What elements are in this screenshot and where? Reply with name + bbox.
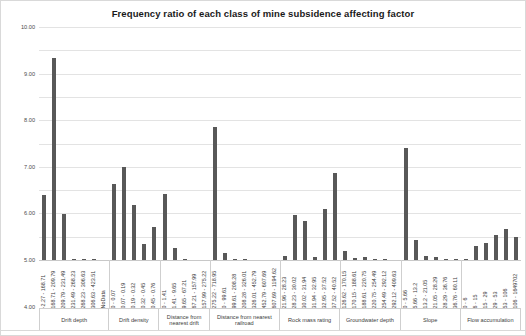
x-axis-tick-label: 231.49 - 268.23 bbox=[71, 270, 76, 308]
x-axis-tick-label: 21.96 - 28.23 bbox=[282, 276, 287, 308]
x-axis-tick-label: 326.01 - 452.79 bbox=[251, 270, 256, 308]
x-axis-group-label: Rock mass rating bbox=[280, 309, 340, 331]
x-axis-tick-label: 0 - 99.61 bbox=[221, 287, 226, 308]
x-axis-tick-label: 9.65 - 67.21 bbox=[181, 279, 186, 308]
bar bbox=[293, 215, 297, 260]
plot-area: 0.001.002.003.004.005.006.007.008.009.00… bbox=[39, 27, 521, 260]
group-separator bbox=[280, 260, 281, 308]
x-axis-tick-label: 275.22 - 718.95 bbox=[211, 270, 216, 308]
y-axis-tick-label: 6.00 bbox=[24, 210, 35, 216]
x-axis-group-label: Groundwater depth bbox=[340, 309, 400, 331]
page-title: Frequency ratio of each class of mine su… bbox=[1, 8, 525, 19]
x-axis-tick-label: 0.07 - 0.19 bbox=[121, 282, 126, 308]
x-axis-tick-label: 0.32 - 0.45 bbox=[141, 282, 146, 308]
x-axis-tick-label: 0.45 - 0.76 bbox=[151, 282, 156, 308]
bar bbox=[142, 244, 146, 260]
x-axis-tick-label: 254.49 - 292.12 bbox=[382, 270, 387, 308]
x-axis-tick-label: -2.27 - 168.71 bbox=[41, 274, 46, 308]
x-axis-tick-label: 67.21 - 157.99 bbox=[191, 273, 196, 308]
x-axis-tick-label: 37.52 - 40.52 bbox=[332, 276, 337, 308]
x-axis-tick-label: 220.75 - 254.49 bbox=[372, 270, 377, 308]
x-axis-tick-label: 28.23 - 30.02 bbox=[292, 276, 297, 308]
y-axis-tick-label: 4.00 bbox=[24, 304, 35, 310]
x-axis-tick-label: 0 - 1.41 bbox=[161, 290, 166, 308]
x-axis-tick-label: 15 - 29 bbox=[482, 291, 487, 308]
bar bbox=[52, 58, 56, 260]
x-axis-group-label: Distance from nearest railroad bbox=[210, 309, 280, 331]
frequency-ratio-chart: Frequency ratio of each class of mine su… bbox=[0, 0, 526, 336]
x-axis-tick-label: 30.02 - 31.94 bbox=[302, 276, 307, 308]
x-axis-tick-label: 28.29 - 36.76 bbox=[442, 276, 447, 308]
x-axis-tick-label: 157.99 - 275.22 bbox=[201, 270, 206, 308]
x-axis-tick-label: 6 - 15 bbox=[472, 294, 477, 308]
bar bbox=[42, 195, 46, 260]
bar bbox=[112, 184, 116, 260]
x-axis-tick-label: 209.79 - 231.49 bbox=[61, 270, 66, 308]
bar bbox=[494, 235, 498, 260]
group-separator bbox=[461, 260, 462, 308]
group-separator bbox=[210, 260, 211, 308]
x-axis-group-names: Drift depthDrift densityDistance from ne… bbox=[39, 308, 521, 330]
bar bbox=[163, 194, 167, 260]
y-axis-tick-label: 10.00 bbox=[21, 24, 35, 30]
group-separator bbox=[160, 260, 161, 308]
x-axis-tick-label: 126.62 - 170.15 bbox=[342, 270, 347, 308]
y-axis-tick-label: 5.00 bbox=[24, 257, 35, 263]
bar bbox=[62, 214, 66, 260]
x-axis-group-label: Drift density bbox=[109, 309, 159, 331]
bar bbox=[173, 248, 177, 260]
x-axis-tick-label: 99.61 - 208.28 bbox=[231, 273, 236, 308]
group-separator bbox=[109, 260, 110, 308]
bar bbox=[343, 251, 347, 260]
bar bbox=[132, 205, 136, 260]
x-axis-tick-label: 31.94 - 32.95 bbox=[312, 276, 317, 308]
bar bbox=[474, 246, 478, 260]
x-axis-tick-label: 170.15 - 188.61 bbox=[352, 270, 357, 308]
x-axis-group-label: Drift depth bbox=[39, 309, 109, 331]
bars-layer bbox=[39, 27, 521, 260]
x-axis-group-label: Flow accumulation bbox=[461, 309, 521, 331]
x-axis-tick-label: 29 - 53 bbox=[492, 291, 497, 308]
bar bbox=[333, 173, 337, 260]
group-separator bbox=[401, 260, 402, 308]
y-axis-tick-label: 8.00 bbox=[24, 117, 35, 123]
x-axis-tick-label: 0.19 - 0.32 bbox=[131, 282, 136, 308]
x-axis-tick-label: 36.76 - 60.11 bbox=[452, 277, 457, 308]
bar bbox=[484, 243, 488, 260]
x-axis-tick-label: 452.79 - 607.69 bbox=[262, 270, 267, 308]
bar bbox=[303, 221, 307, 260]
x-axis-tick-label: 21.05 - 28.29 bbox=[432, 276, 437, 308]
bar bbox=[122, 167, 126, 260]
x-axis-tick-label: 607.69 - 1194.62 bbox=[272, 268, 277, 308]
bar bbox=[504, 229, 508, 260]
bar bbox=[323, 209, 327, 260]
x-axis-tick-label: 5.66 - 13.2 bbox=[412, 282, 417, 308]
x-axis-tick-label: 32.95 - 37.52 bbox=[322, 276, 327, 308]
x-axis-tick-label: 13.2 - 21.05 bbox=[422, 279, 427, 308]
y-axis-tick-label: 7.00 bbox=[24, 164, 35, 170]
x-axis-tick-label: 106 - 1649702 bbox=[513, 273, 518, 308]
x-axis-tick-label: 53 - 106 bbox=[503, 288, 508, 308]
x-axis-group-label: Distance from nearest drift bbox=[160, 309, 210, 331]
card-baseline bbox=[1, 330, 525, 331]
bar bbox=[152, 227, 156, 260]
x-axis-tick-label: 268.23 - 306.63 bbox=[81, 270, 86, 308]
x-axis-tick-label: 0 - 5.66 bbox=[402, 290, 407, 308]
y-axis-tick-label: 9.00 bbox=[24, 71, 35, 77]
x-axis-tick-label: 0 - 6 bbox=[462, 297, 467, 308]
bar bbox=[414, 240, 418, 260]
x-axis-tick-label: 292.12 - 409.63 bbox=[392, 270, 397, 308]
x-axis-tick-label: 208.28 - 326.01 bbox=[241, 270, 246, 308]
bar bbox=[213, 127, 217, 260]
x-axis-tick-label: 306.63 - 423.51 bbox=[91, 270, 96, 308]
x-axis-tick-label: 1.41 - 9.65 bbox=[171, 282, 176, 308]
x-axis-tick-label: 0 - 0.07 bbox=[111, 290, 116, 308]
bar bbox=[514, 237, 518, 260]
x-axis-tick-label: NoData bbox=[101, 290, 106, 308]
bar bbox=[404, 148, 408, 260]
x-axis-tick-label: 188.61 - 220.75 bbox=[362, 270, 367, 308]
x-axis-labels: -2.27 - 168.71168.71 - 209.79209.79 - 23… bbox=[39, 260, 521, 308]
group-separator bbox=[340, 260, 341, 308]
x-axis-tick-label: 168.71 - 209.79 bbox=[51, 270, 56, 308]
x-axis-group-label: Slope bbox=[401, 309, 461, 331]
